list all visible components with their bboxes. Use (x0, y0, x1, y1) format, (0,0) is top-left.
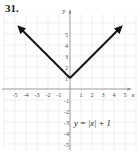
curve-left-branch (20, 28, 71, 79)
y-tick-label: 5 (65, 31, 68, 38)
y-tick-labels-negative: -1 -2 -3 -4 -5 (64, 97, 69, 148)
x-tick-label: 5 (123, 91, 126, 98)
y-tick-label: -5 (64, 141, 69, 148)
x-tick-label: -1 (56, 91, 61, 98)
x-axis-label: x (131, 91, 136, 99)
y-tick-label: -2 (64, 108, 69, 115)
textbook-figure: 31. (0, 0, 140, 152)
y-tick-label: -3 (64, 119, 69, 126)
x-tick-label: -2 (45, 91, 50, 98)
equation-label: y = |x| + 1 (73, 118, 111, 128)
y-axis-label: y (62, 7, 67, 15)
coordinate-plane-graph: y x -5 -4 -3 -2 -1 1 2 3 4 5 5 4 3 2 1 -… (0, 0, 140, 152)
curve-right-branch (70, 28, 121, 79)
x-tick-label: -3 (34, 91, 39, 98)
x-tick-labels-positive: 1 2 3 4 5 (79, 91, 126, 98)
y-tick-label: 4 (65, 42, 68, 49)
x-tick-label: -4 (23, 91, 28, 98)
y-tick-label: 2 (65, 64, 68, 71)
x-tick-label: 3 (101, 91, 104, 98)
y-tick-label: -4 (64, 130, 69, 137)
x-tick-label: -5 (12, 91, 17, 98)
y-tick-label: -1 (64, 97, 69, 104)
y-tick-label: 3 (65, 53, 68, 60)
x-tick-label: 2 (90, 91, 93, 98)
x-tick-label: 1 (79, 91, 82, 98)
x-tick-labels-negative: -5 -4 -3 -2 -1 (12, 91, 61, 98)
x-tick-label: 4 (112, 91, 115, 98)
